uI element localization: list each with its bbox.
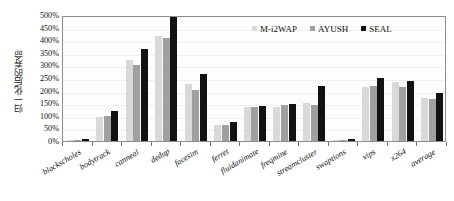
bar (318, 86, 325, 141)
legend-item: SEAL (361, 24, 392, 34)
bar (141, 49, 148, 141)
bar (407, 81, 414, 141)
bar (429, 99, 436, 141)
bar-group (333, 17, 355, 141)
x-axis-label: facesim (173, 147, 200, 168)
y-axis-tick-label: 400% (40, 37, 59, 45)
x-axis-label: vips (361, 147, 377, 162)
x-axis-label: canneal (113, 147, 140, 168)
y-axis-tick-label: 450% (40, 24, 59, 32)
bar (222, 125, 229, 141)
legend-item: M-i2WAP (252, 24, 297, 34)
legend-item: AYUSH (310, 24, 348, 34)
bar (185, 84, 192, 141)
legend-swatch-icon (361, 26, 366, 31)
bar-group (155, 17, 177, 141)
bar (82, 139, 89, 141)
bar (244, 107, 251, 141)
y-axis-title: 归一化后的寿命 (13, 28, 27, 136)
x-axis-label: average (409, 147, 437, 168)
y-axis-tick-label: 250% (40, 75, 59, 83)
bar (74, 140, 81, 141)
x-axis-label: dedup (149, 147, 171, 165)
y-axis-tick-label: 0% (48, 138, 59, 146)
bar (251, 107, 258, 141)
bar (303, 103, 310, 141)
x-axis-label: x264 (389, 147, 408, 163)
y-axis-tick-label: 100% (40, 113, 59, 121)
bar (133, 65, 140, 141)
bar (163, 38, 170, 141)
legend-label: AYUSH (318, 24, 348, 34)
bar-group (126, 17, 148, 141)
bar (200, 74, 207, 141)
x-axis-label: blackscholes (41, 147, 83, 176)
bar (155, 36, 162, 141)
x-axis-category-labels: blackscholesbodytrackcannealdedupfacesim… (62, 146, 454, 201)
legend-swatch-icon (310, 26, 315, 31)
bar (399, 87, 406, 141)
bar (96, 117, 103, 141)
y-axis-tick-label: 200% (40, 87, 59, 95)
bar (348, 139, 355, 141)
bar (362, 87, 369, 141)
y-axis-tick-label: 300% (40, 62, 59, 70)
y-axis-tick-label: 50% (44, 125, 59, 133)
bar (370, 86, 377, 141)
bars-layer (63, 17, 445, 141)
bar-group (244, 17, 266, 141)
bar (170, 16, 177, 141)
chart-legend: M-i2WAPAYUSHSEAL (252, 22, 392, 35)
bar-group (303, 17, 325, 141)
y-axis-tick-label: 500% (40, 12, 59, 20)
legend-swatch-icon (252, 26, 257, 31)
bar (340, 140, 347, 141)
bar (259, 106, 266, 141)
legend-label: M-i2WAP (260, 24, 297, 34)
bar-group (67, 17, 89, 141)
y-axis-tick-label: 150% (40, 100, 59, 108)
bar-group (273, 17, 295, 141)
x-axis-label: swaptions (314, 147, 348, 172)
bar (126, 60, 133, 141)
bar (281, 105, 288, 141)
bar (436, 93, 443, 141)
bar (392, 82, 399, 141)
bar-group (362, 17, 384, 141)
bar (214, 125, 221, 141)
bar (104, 116, 111, 141)
x-axis-label: bodytrack (78, 147, 112, 172)
bar-group (214, 17, 236, 141)
bar-group (392, 17, 414, 141)
x-axis-label: ferret (210, 147, 230, 164)
bar (311, 105, 318, 141)
bar (67, 140, 74, 141)
bar-group (185, 17, 207, 141)
bar (192, 90, 199, 141)
y-axis-tick-label: 350% (40, 50, 59, 58)
bar (377, 78, 384, 141)
y-axis-tick-labels: 500%450%400%350%300%250%200%150%100%50%0… (28, 16, 61, 142)
bar (111, 111, 118, 141)
bar (289, 104, 296, 141)
bar (273, 107, 280, 141)
chart-figure: 归一化后的寿命 500%450%400%350%300%250%200%150%… (0, 0, 454, 201)
bar (421, 98, 428, 141)
bar-group (421, 17, 443, 141)
bar-group (96, 17, 118, 141)
bar (333, 140, 340, 141)
legend-label: SEAL (369, 24, 392, 34)
bar (230, 122, 237, 141)
